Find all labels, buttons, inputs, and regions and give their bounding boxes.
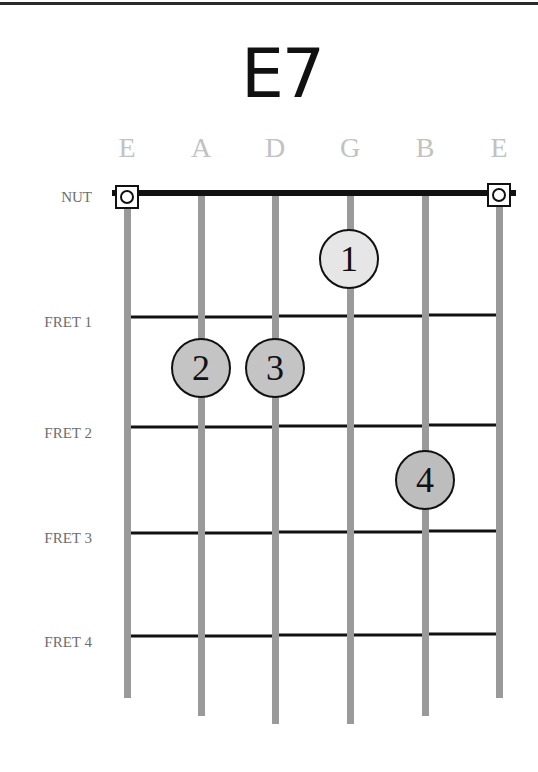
string-low-e [124,196,131,698]
fret-2 [131,425,496,427]
fret-3 [131,531,496,533]
string-a [198,196,205,716]
string-high-e [496,196,503,698]
nut-bar [112,190,516,196]
string-d [272,196,279,724]
open-string-marker-high-e [488,184,510,206]
finger-number-2: 2 [171,338,231,398]
finger-number-3: 3 [245,338,305,398]
fret-1 [131,315,496,317]
open-string-marker-low-e [116,186,138,208]
finger-number-1: 1 [319,229,379,289]
finger-number-4: 4 [395,450,455,510]
fret-4 [131,634,496,636]
